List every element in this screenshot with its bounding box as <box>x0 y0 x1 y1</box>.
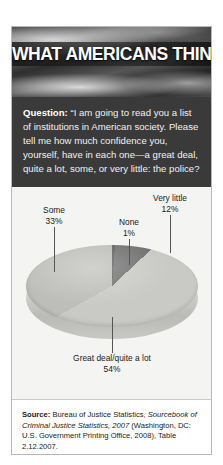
slice-label-none-name: None <box>119 217 139 228</box>
slice-label-very-little: Very little 12% <box>153 193 187 214</box>
what-americans-think-figure: WHAT AMERICANS THINK Question: “I am goi… <box>11 26 212 455</box>
pie-top-face <box>26 245 198 327</box>
slice-label-some-name: Some <box>43 205 65 216</box>
slice-label-great-deal: Great deal/quite a lot 54% <box>73 353 151 374</box>
leader-line-very-little <box>170 215 171 253</box>
slice-label-great-deal-value: 54% <box>73 364 151 375</box>
leader-line-none <box>129 239 130 265</box>
slice-label-very-little-value: 12% <box>153 204 187 215</box>
slice-label-some: Some 33% <box>43 205 65 226</box>
slice-label-great-deal-name: Great deal/quite a lot <box>73 353 151 364</box>
question-block: Question: “I am going to read you a list… <box>12 97 211 187</box>
source-part-one: Bureau of Justice Statistics, <box>50 410 148 419</box>
slice-label-some-value: 33% <box>43 216 65 227</box>
leader-line-some <box>54 227 55 272</box>
pie-chart: Some 33% None 1% Very little 12% Great d… <box>12 187 211 399</box>
source-label: Source: <box>22 410 50 419</box>
banner-title: WHAT AMERICANS THINK <box>12 44 211 64</box>
slice-label-none: None 1% <box>119 217 139 238</box>
slice-label-very-little-name: Very little <box>153 193 187 204</box>
question-label: Question: <box>23 107 68 118</box>
leader-line-great-deal <box>112 317 113 353</box>
slice-label-none-value: 1% <box>119 228 139 239</box>
figure-banner: WHAT AMERICANS THINK <box>12 27 211 97</box>
source-citation: Source: Bureau of Justice Statistics, So… <box>12 399 211 455</box>
